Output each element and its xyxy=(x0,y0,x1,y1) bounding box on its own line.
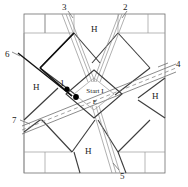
callout-2: 2 xyxy=(123,3,128,12)
callout-3: 3 xyxy=(62,3,67,12)
diagram-canvas: 1 2 3 4 5 6 7 H H H H Start I E xyxy=(0,0,188,187)
callout-6: 6 xyxy=(5,50,10,59)
callout-7: 7 xyxy=(12,116,17,125)
hall-left-label: H xyxy=(33,83,40,92)
callout-1: 1 xyxy=(60,79,65,88)
callout-4: 4 xyxy=(176,60,181,69)
hall-right-label: H xyxy=(152,92,159,101)
start-label-line2: E xyxy=(75,99,115,106)
callout-5: 5 xyxy=(120,172,125,181)
start-label-line1: Start I xyxy=(75,88,115,95)
hall-top-label: H xyxy=(91,25,98,34)
hall-bottom-label: H xyxy=(85,147,92,156)
